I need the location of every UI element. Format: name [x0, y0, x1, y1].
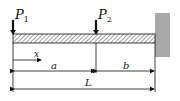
fixed-wall [155, 13, 170, 57]
load-p2-arrow-icon [93, 20, 99, 35]
load-p2-label: P2 [97, 7, 112, 24]
dimension-L-label: L [84, 77, 92, 88]
x-axis-label: x [34, 49, 39, 59]
dimension-b-label: b [123, 60, 129, 71]
beam [13, 34, 155, 43]
load-p1-label: P1 [14, 7, 29, 24]
dimension-a-label: a [51, 60, 57, 71]
load-p1-arrow-icon [10, 20, 16, 35]
beam-diagram: P1 P2 x a b L [0, 0, 180, 101]
